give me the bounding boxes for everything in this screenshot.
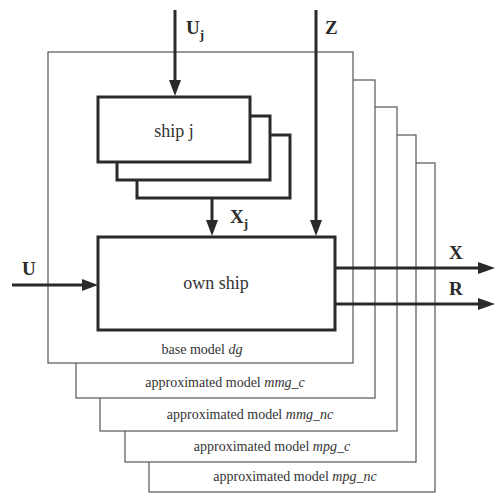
layer-label-base: base model dg bbox=[162, 342, 243, 357]
uj-label: Uj bbox=[186, 17, 204, 42]
z-label: Z bbox=[325, 17, 338, 38]
layer-label-mmg-nc: approximated model mmg_nc bbox=[167, 407, 334, 422]
own-ship-label: own ship bbox=[183, 273, 249, 293]
system-diagram: base model dg approximated model mmg_c a… bbox=[0, 0, 497, 500]
r-label: R bbox=[449, 278, 463, 299]
x-label: X bbox=[449, 242, 463, 263]
arrowhead-icon bbox=[478, 298, 495, 310]
u-label: U bbox=[22, 258, 36, 279]
layer-label-mpg-c: approximated model mpg_c bbox=[194, 439, 351, 454]
layer-label-mpg-nc: approximated model mpg_nc bbox=[213, 469, 377, 484]
layer-label-mmg-c: approximated model mmg_c bbox=[145, 375, 305, 390]
arrowhead-icon bbox=[478, 262, 495, 274]
ship-j-label: ship j bbox=[154, 121, 194, 141]
